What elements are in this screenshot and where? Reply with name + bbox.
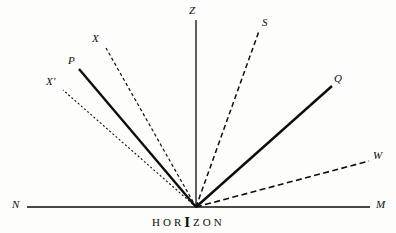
label-ray-x-prime: X' bbox=[46, 76, 55, 87]
label-ray-q: Q bbox=[334, 73, 342, 84]
diagram-canvas bbox=[0, 0, 396, 233]
horizon-caption: HORIZON bbox=[152, 214, 225, 229]
horizon-caption-letter: I bbox=[184, 214, 190, 230]
label-ray-x: X bbox=[92, 33, 99, 44]
horizon-caption-letter: Z bbox=[193, 216, 200, 228]
horizon-caption-letter: N bbox=[214, 216, 222, 228]
label-ray-z: Z bbox=[189, 5, 195, 16]
label-ray-p: P bbox=[68, 55, 75, 66]
label-ray-s: S bbox=[262, 17, 268, 28]
ray-x-prime bbox=[63, 90, 196, 207]
ray-p bbox=[79, 69, 196, 207]
ray-x bbox=[106, 48, 196, 207]
horizon-ray-diagram: X' P X Z S Q W N M HORIZON bbox=[0, 0, 396, 233]
ray-s bbox=[196, 31, 259, 207]
label-ray-w: W bbox=[373, 150, 382, 161]
ray-lines-group bbox=[63, 20, 369, 207]
horizon-caption-letter: R bbox=[174, 216, 182, 228]
horizon-caption-letter: O bbox=[203, 216, 211, 228]
horizon-right-endpoint-label: M bbox=[376, 199, 385, 210]
horizon-caption-letter: O bbox=[163, 216, 171, 228]
horizon-caption-letter: H bbox=[152, 216, 160, 228]
horizon-left-endpoint-label: N bbox=[12, 199, 20, 210]
